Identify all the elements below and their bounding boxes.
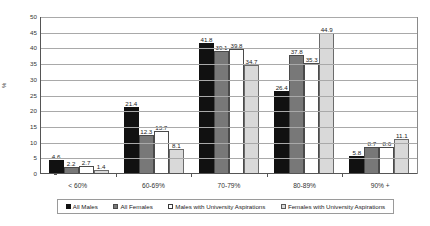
gridline [41,64,417,65]
gridline [41,127,417,128]
bar-chart: % 05101520253035404550 4.62.22.71.421.41… [0,0,430,226]
x-axis-tick-mark [267,174,268,177]
bar[interactable]: 39.1 [214,51,229,174]
bar[interactable]: 8.6 [379,147,394,174]
y-axis-tick-label: 45 [30,30,37,36]
y-axis-tick-labels: 05101520253035404550 [17,14,37,174]
bar-value-label: 35.3 [306,56,318,63]
x-axis-category-label: 90% + [342,182,418,189]
y-axis-tick-label: 35 [30,61,37,67]
y-axis-tick-label: 50 [30,14,37,20]
y-axis-tick-label: 25 [30,93,37,99]
bar[interactable]: 11.1 [394,139,409,174]
bar-value-label: 21.4 [125,100,137,107]
gridline [41,17,417,18]
bar-value-label: 5.8 [353,149,362,156]
bar[interactable]: 8.1 [169,149,184,174]
legend-swatch-icon [113,204,118,209]
legend-label: Males with University Aspirations [175,203,265,210]
y-axis-tick-label: 5 [34,155,37,161]
bar-value-label: 2.2 [67,160,76,167]
bar[interactable]: 13.7 [154,131,169,174]
x-axis-category-label: 70-79% [191,182,267,189]
bar[interactable]: 21.4 [124,107,139,174]
y-axis-tick-label: 20 [30,108,37,114]
bar-value-label: 1.4 [97,163,106,170]
plot-area: 4.62.22.71.421.412.313.78.141.839.139.83… [40,17,418,174]
bar[interactable]: 4.6 [49,160,64,174]
y-axis-tick-label: 15 [30,124,37,130]
y-axis-tick-label: 40 [30,45,37,51]
x-axis-category-label: < 60% [40,182,116,189]
x-axis-tick-mark [342,174,343,177]
gridline [41,80,417,81]
bar[interactable]: 41.8 [199,43,214,174]
legend-item[interactable]: All Males [64,203,100,210]
gridline [41,48,417,49]
legend-item[interactable]: All Females [111,203,154,210]
bar-value-label: 41.8 [200,36,212,43]
gridline [41,96,417,97]
x-axis-category-label: 60-69% [116,182,192,189]
y-axis-tick-label: 0 [34,171,37,177]
bar[interactable]: 26.4 [274,91,289,174]
y-axis-tick-label: 30 [30,77,37,83]
legend-label: All Females [120,203,152,210]
bar-value-label: 2.7 [82,159,91,166]
x-axis-tick-mark [191,174,192,177]
gridline [41,33,417,34]
gridline [41,143,417,144]
bar-value-label: 26.4 [276,84,288,91]
gridline [41,158,417,159]
y-axis-title: % [1,83,7,88]
x-axis-line [41,173,417,174]
x-axis-category-labels: < 60%60-69%70-79%80-89%90% + [40,182,418,189]
legend-swatch-icon [168,204,173,209]
chart-legend: All MalesAll FemalesMales with Universit… [57,199,394,214]
x-axis-category-label: 80-89% [267,182,343,189]
bar[interactable]: 44.9 [319,33,334,174]
bar[interactable]: 12.3 [139,135,154,174]
gridline [41,111,417,112]
y-axis-tick-mark [54,174,57,175]
bar[interactable]: 8.7 [364,147,379,174]
legend-swatch-icon [281,204,286,209]
y-axis-tick-label: 10 [30,140,37,146]
bar[interactable]: 37.8 [289,55,304,174]
legend-item[interactable]: Females with University Aspirations [279,203,387,210]
legend-item[interactable]: Males with University Aspirations [166,203,267,210]
legend-label: Females with University Aspirations [288,203,385,210]
x-axis-tick-mark [116,174,117,177]
bar-value-label: 12.3 [140,128,152,135]
bar-value-label: 11.1 [396,132,408,139]
legend-label: All Males [73,203,98,210]
legend-swatch-icon [66,204,71,209]
